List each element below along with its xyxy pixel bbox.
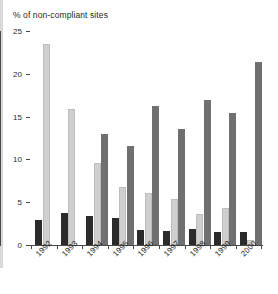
y-axis-tick — [26, 31, 30, 32]
bar-1995-series-b — [119, 187, 126, 245]
bar-1994-series-b — [94, 163, 101, 245]
bar-chart-figure: % of non-compliant sites 051015202519921… — [0, 0, 278, 294]
bar-1996-series-c — [152, 106, 159, 245]
bar-1996-series-b — [145, 193, 152, 245]
x-axis-tick — [31, 245, 32, 249]
bar-1994-series-c — [101, 134, 108, 245]
chart-title: % of non-compliant sites — [13, 10, 108, 20]
y-axis-tick — [26, 159, 30, 160]
y-axis-tick-label: 5 — [0, 198, 22, 207]
x-axis-tick — [133, 245, 134, 249]
x-axis-tick — [236, 245, 237, 249]
x-axis-tick — [108, 245, 109, 249]
y-axis-tick-label: 20 — [0, 69, 22, 78]
y-axis-tick-label: 0 — [0, 241, 22, 250]
bar-1995-series-c — [127, 146, 134, 245]
bar-1992-series-a — [35, 220, 42, 245]
bar-1994-series-a — [86, 216, 93, 245]
x-axis-tick — [185, 245, 186, 249]
bar-2000-series-c — [255, 62, 262, 245]
bar-1998-series-c — [204, 100, 211, 245]
x-axis-tick — [57, 245, 58, 249]
bar-1996-series-a — [137, 230, 144, 245]
bar-1993-series-b — [68, 109, 75, 245]
x-axis-tick — [210, 245, 211, 249]
y-axis-tick — [26, 74, 30, 75]
y-axis-tick-label: 10 — [0, 155, 22, 164]
bar-1999-series-c — [229, 113, 236, 245]
bar-1992-series-b — [43, 44, 50, 245]
y-axis-tick-label: 15 — [0, 112, 22, 121]
y-axis-tick — [26, 117, 30, 118]
y-axis-tick — [26, 202, 30, 203]
x-axis-tick — [159, 245, 160, 249]
bar-1997-series-a — [163, 231, 170, 245]
x-axis-tick — [261, 245, 262, 249]
bar-1995-series-a — [112, 218, 119, 245]
bar-1998-series-a — [189, 229, 196, 245]
y-axis-tick — [26, 245, 30, 246]
bar-1993-series-a — [61, 213, 68, 245]
bar-2000-series-a — [240, 232, 247, 245]
x-axis-tick — [82, 245, 83, 249]
y-axis-tick-label: 25 — [0, 27, 22, 36]
bar-1997-series-c — [178, 129, 185, 245]
y-axis-line — [0, 31, 1, 246]
